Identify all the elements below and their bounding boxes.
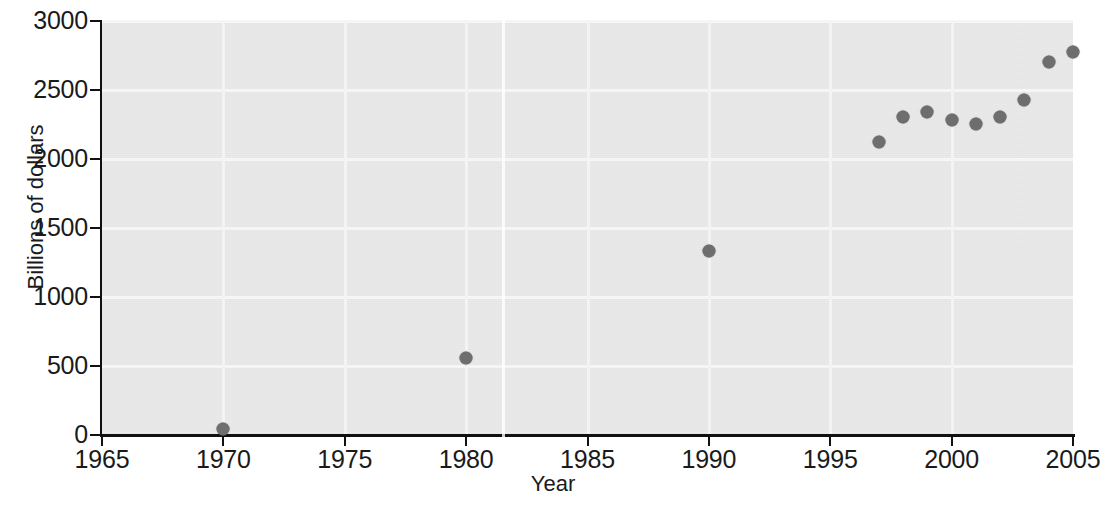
data-point [460, 352, 473, 365]
data-point [217, 423, 230, 436]
y-axis-tick [90, 158, 101, 160]
y-axis-tick-label: 2000 [0, 146, 88, 171]
y-axis-tick-label: 2500 [0, 77, 88, 102]
data-point [702, 245, 715, 258]
y-axis-tick [90, 365, 101, 367]
x-axis-tick-label: 1985 [528, 445, 648, 473]
x-axis-tick-label: 1965 [42, 445, 162, 473]
x-axis-tick-label: 1990 [649, 445, 769, 473]
gridline-vertical [465, 21, 468, 435]
x-axis-tick-label: 1970 [163, 445, 283, 473]
x-axis-tick-label: 2000 [892, 445, 1012, 473]
data-point [1067, 46, 1080, 59]
y-axis-tick [90, 20, 101, 22]
gridline-vertical [344, 21, 347, 435]
x-axis-tick-label: 1995 [770, 445, 890, 473]
data-point [897, 110, 910, 123]
gridline-vertical [222, 21, 225, 435]
y-axis-tick [90, 434, 101, 436]
data-point [945, 113, 958, 126]
gridline-vertical [951, 21, 954, 435]
gridline-vertical [708, 21, 711, 435]
gridline-vertical [829, 21, 832, 435]
data-point [994, 110, 1007, 123]
gridline-vertical [587, 21, 590, 435]
x-axis-tick-label: 1980 [406, 445, 526, 473]
data-point [872, 135, 885, 148]
data-point [1042, 55, 1055, 68]
y-axis-tick [90, 227, 101, 229]
y-axis-tick [90, 296, 101, 298]
x-axis-tick-label: 1975 [285, 445, 405, 473]
x-axis-tick-label: 2005 [1013, 445, 1106, 473]
plot-area [102, 21, 1073, 435]
y-axis-tick-label: 1000 [0, 284, 88, 309]
y-axis-tick-label: 1500 [0, 215, 88, 240]
y-axis-tick-label: 0 [0, 422, 88, 447]
y-axis-tick-label: 3000 [0, 8, 88, 33]
scatter-chart-figure: Billions of dollars Year 050010001500200… [0, 0, 1106, 510]
x-axis-title: Year [453, 473, 653, 495]
y-axis-tick [90, 89, 101, 91]
data-point [1018, 93, 1031, 106]
y-axis-tick-label: 500 [0, 353, 88, 378]
data-point [921, 106, 934, 119]
data-point [969, 117, 982, 130]
